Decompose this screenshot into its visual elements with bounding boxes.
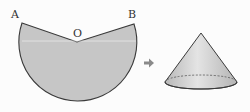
right-arrow-icon: [144, 59, 154, 68]
label-a: A: [10, 8, 20, 21]
label-b: B: [128, 8, 136, 21]
diagram-canvas: A B O: [0, 0, 250, 112]
cone-shape: [165, 33, 237, 89]
diagram-svg: A B O: [0, 0, 250, 112]
label-o: O: [73, 27, 82, 40]
